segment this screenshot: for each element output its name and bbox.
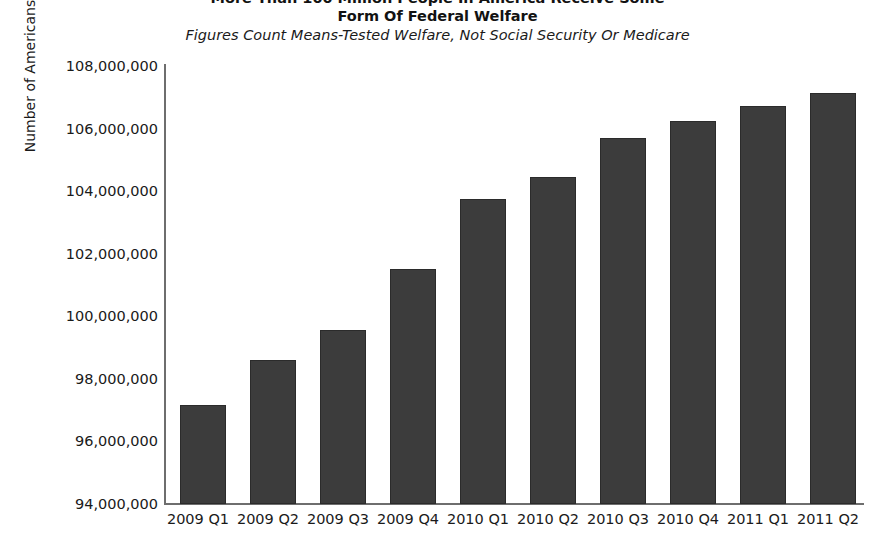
bar-chart: More Than 100 Million People In America … [0, 0, 875, 538]
x-tick-label: 2009 Q2 [233, 509, 303, 529]
bar [180, 405, 226, 504]
bar [530, 177, 576, 504]
y-tick-label: 108,000,000 [48, 58, 158, 74]
y-tick-label: 106,000,000 [48, 121, 158, 137]
bar [740, 106, 786, 504]
y-tick-label: 96,000,000 [48, 433, 158, 449]
plot-area [165, 66, 865, 504]
bar [670, 121, 716, 504]
bar [600, 138, 646, 504]
x-tick-label: 2011 Q2 [793, 509, 863, 529]
bar [460, 199, 506, 504]
x-axis-tick-labels: 2009 Q12009 Q22009 Q32009 Q42010 Q12010 … [165, 509, 865, 535]
x-tick-label: 2010 Q3 [583, 509, 653, 529]
y-axis-tick-labels: 108,000,000106,000,000104,000,000102,000… [46, 0, 158, 538]
bar [320, 330, 366, 504]
y-axis-title: Number of Americans [22, 0, 40, 196]
x-tick-label: 2009 Q1 [163, 509, 233, 529]
y-tick-label: 102,000,000 [48, 246, 158, 262]
x-tick-label: 2010 Q1 [443, 509, 513, 529]
bar [810, 93, 856, 504]
y-tick-label: 94,000,000 [48, 496, 158, 512]
y-tick-label: 98,000,000 [48, 371, 158, 387]
bar [250, 360, 296, 504]
x-tick-label: 2009 Q4 [373, 509, 443, 529]
y-tick-label: 104,000,000 [48, 183, 158, 199]
y-tick-label: 100,000,000 [48, 308, 158, 324]
x-tick-label: 2010 Q4 [653, 509, 723, 529]
bar [390, 269, 436, 504]
x-tick-label: 2009 Q3 [303, 509, 373, 529]
x-tick-label: 2011 Q1 [723, 509, 793, 529]
x-tick-label: 2010 Q2 [513, 509, 583, 529]
